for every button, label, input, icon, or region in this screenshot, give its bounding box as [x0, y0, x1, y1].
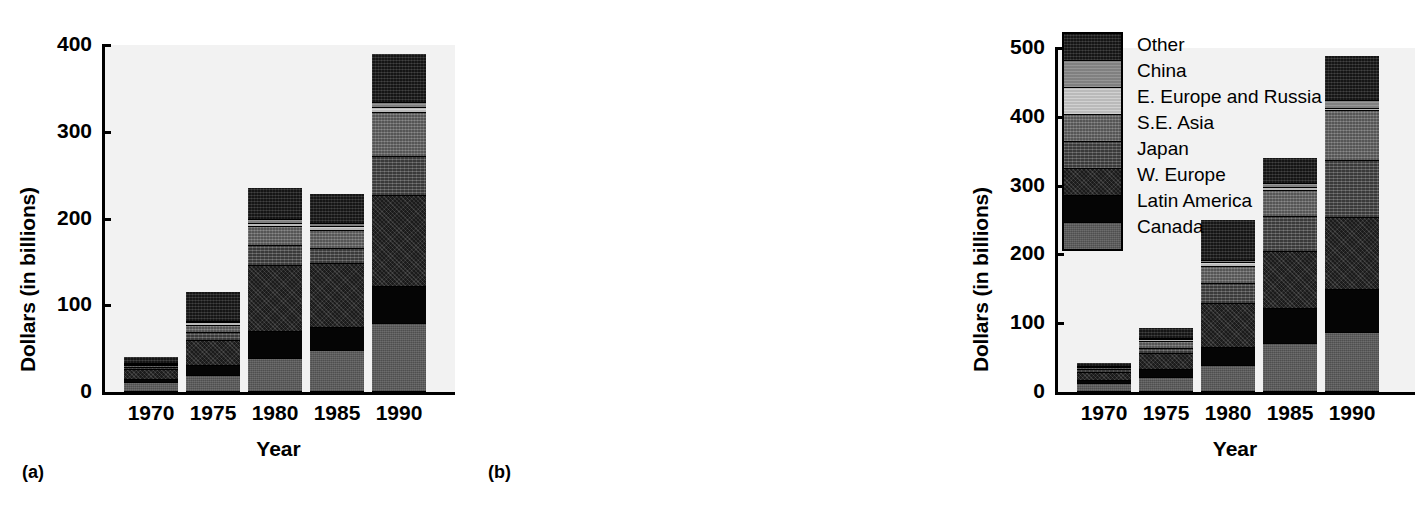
y-axis-line-b [1055, 48, 1058, 395]
bar-segment [310, 227, 364, 230]
bar-segment [186, 333, 240, 341]
x-tick-label: 1990 [1317, 401, 1387, 425]
bar-segment [186, 323, 240, 326]
segment-divider [1077, 391, 1131, 392]
segment-divider [310, 223, 364, 224]
segment-divider [248, 219, 302, 220]
bar-segment [186, 341, 240, 366]
bar-segment [1325, 333, 1379, 392]
y-tick-mark [1055, 322, 1064, 325]
legend-label: E. Europe and Russia [1137, 84, 1322, 110]
bar-segment [1077, 370, 1131, 373]
bar-segment [1325, 161, 1379, 218]
segment-divider [186, 325, 240, 326]
bar-segment [1325, 218, 1379, 290]
segment-divider [372, 102, 426, 103]
legend-label: Other [1137, 32, 1322, 58]
segment-divider [124, 382, 178, 383]
bar-segment [310, 224, 364, 227]
bar-segment [248, 220, 302, 223]
bar-segment [1139, 370, 1193, 378]
y-axis-title-a: Dollars (in billions) [16, 187, 40, 372]
segment-divider [1201, 365, 1255, 366]
x-tick-label: 1985 [302, 401, 372, 425]
bar-segment [1077, 368, 1131, 370]
bar-segment [310, 264, 364, 328]
segment-divider [1263, 308, 1317, 309]
panel-label-a: (a) [22, 462, 44, 483]
bar-segment [1325, 111, 1379, 161]
y-tick-mark [102, 44, 111, 47]
bar-segment [124, 366, 178, 368]
segment-divider [1077, 369, 1131, 370]
bar-segment [248, 246, 302, 266]
bar-segment [310, 249, 364, 264]
x-axis-title-a: Year [102, 437, 455, 461]
bar-segment [248, 359, 302, 392]
bar-segment [1325, 290, 1379, 333]
bar-segment [372, 54, 426, 103]
legend-label: China [1137, 58, 1322, 84]
segment-divider [1201, 347, 1255, 348]
bar-segment [1201, 304, 1255, 348]
segment-divider [248, 391, 302, 392]
bar-segment [1325, 109, 1379, 112]
chart-panel-b: 0100200300400500 19701975198019851990 Ye… [470, 0, 1050, 509]
segment-divider [1139, 338, 1193, 339]
bar-segment [248, 188, 302, 220]
segment-divider [124, 379, 178, 380]
segment-divider [124, 363, 178, 364]
segment-divider [1139, 377, 1193, 378]
y-tick-label: 400 [24, 32, 92, 56]
y-tick-mark [102, 131, 111, 134]
bar-segment [186, 326, 240, 333]
x-axis-line-b [1055, 392, 1415, 395]
segment-divider [1325, 391, 1379, 392]
chart-panel-a: 0100200300400 19701975198019851990 Year … [0, 0, 470, 509]
segment-divider [372, 112, 426, 113]
legend-swatch-column [1062, 32, 1123, 251]
x-tick-label: 1970 [116, 401, 186, 425]
segment-divider [186, 375, 240, 376]
segment-divider [248, 245, 302, 246]
segment-divider [1077, 380, 1131, 381]
x-tick-label: 1985 [1255, 401, 1325, 425]
segment-divider [1201, 262, 1255, 263]
bar-segment [372, 157, 426, 196]
bar-segment [1263, 252, 1317, 310]
segment-divider [1139, 341, 1193, 342]
segment-divider [1201, 260, 1255, 261]
bar-segment [1325, 101, 1379, 109]
segment-divider [124, 367, 178, 368]
legend-swatch-latin-america [1064, 196, 1121, 223]
bar-segment [372, 324, 426, 392]
segment-divider [372, 391, 426, 392]
y-tick-label: 0 [977, 379, 1045, 403]
segment-divider [1201, 391, 1255, 392]
bar-segment [310, 231, 364, 249]
y-tick-label: 0 [24, 379, 92, 403]
x-tick-label: 1980 [240, 401, 310, 425]
segment-divider [310, 263, 364, 264]
segment-divider [372, 156, 426, 157]
segment-divider [1201, 283, 1255, 284]
bar-1980 [248, 0, 302, 392]
bar-segment [1077, 363, 1131, 366]
segment-divider [1325, 108, 1379, 109]
y-tick-label: 500 [977, 35, 1045, 59]
bar-segment [310, 194, 364, 223]
segment-divider [186, 321, 240, 322]
segment-divider [372, 286, 426, 287]
segment-divider [310, 391, 364, 392]
bar-segment [310, 351, 364, 392]
legend-swatch-other [1064, 34, 1121, 61]
bar-segment [248, 224, 302, 227]
segment-divider [124, 364, 178, 365]
segment-divider [372, 107, 426, 108]
bar-1975 [186, 0, 240, 392]
bar-segment [1201, 366, 1255, 392]
bar-segment [1201, 263, 1255, 266]
y-tick-mark [102, 218, 111, 221]
segment-divider [1139, 339, 1193, 340]
bar-segment [1077, 373, 1131, 381]
